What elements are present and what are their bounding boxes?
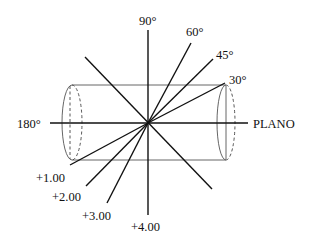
label-180: 180° — [17, 117, 41, 131]
labels: 90° 60° 45° 30° 180° PLANO +1.00 +2.00 +… — [17, 14, 295, 234]
label-power-2: +2.00 — [52, 190, 81, 204]
meridian-30-line — [148, 83, 225, 123]
label-power-3: +3.00 — [82, 209, 111, 223]
label-90: 90° — [139, 14, 157, 28]
label-power-1: +1.00 — [36, 171, 65, 185]
power-1-line — [70, 123, 148, 165]
power-3-line — [107, 123, 148, 203]
meridian-45-line — [148, 59, 213, 123]
label-45: 45° — [216, 48, 234, 62]
power-2-line — [86, 123, 148, 186]
label-60: 60° — [186, 25, 204, 39]
label-plano: PLANO — [253, 117, 295, 131]
label-power-4: +4.00 — [131, 220, 160, 234]
label-30: 30° — [229, 73, 247, 87]
cylinder-lens-diagram: 90° 60° 45° 30° 180° PLANO +1.00 +2.00 +… — [0, 0, 313, 245]
meridian-60-line — [148, 43, 191, 123]
